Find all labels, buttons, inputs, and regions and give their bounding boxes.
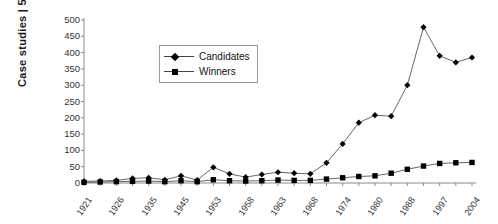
data-point-winners	[227, 178, 232, 183]
data-point-candidates	[420, 24, 426, 30]
data-point-winners	[453, 160, 458, 165]
legend-item-winners: Winners	[164, 64, 250, 79]
data-point-winners	[146, 178, 151, 183]
data-point-winners	[130, 179, 135, 184]
data-point-winners	[469, 160, 474, 165]
data-point-winners	[324, 176, 329, 181]
data-point-winners	[243, 178, 248, 183]
data-point-winners	[162, 179, 167, 184]
data-point-winners	[372, 173, 377, 178]
data-point-winners	[421, 163, 426, 168]
data-point-winners	[114, 179, 119, 184]
data-point-candidates	[291, 170, 297, 176]
data-point-winners	[437, 161, 442, 166]
data-point-winners	[97, 179, 102, 184]
data-point-winners	[388, 171, 393, 176]
data-point-candidates	[437, 53, 443, 59]
data-point-candidates	[453, 59, 459, 65]
data-point-winners	[81, 180, 86, 185]
data-point-winners	[275, 177, 280, 182]
plot-area	[0, 0, 498, 224]
data-point-candidates	[372, 112, 378, 118]
data-point-candidates	[226, 171, 232, 177]
data-point-winners	[308, 178, 313, 183]
data-point-winners	[211, 177, 216, 182]
data-point-winners	[194, 179, 199, 184]
data-point-winners	[178, 178, 183, 183]
winners-marker-icon	[164, 71, 194, 72]
data-point-winners	[405, 167, 410, 172]
legend-item-candidates: Candidates	[164, 49, 250, 64]
data-point-winners	[356, 174, 361, 179]
candidates-marker-icon	[164, 56, 194, 57]
data-point-candidates	[307, 171, 313, 177]
data-point-candidates	[259, 171, 265, 177]
chart-container: Case studies | 5 50045040035030025020015…	[0, 0, 498, 224]
data-point-candidates	[178, 173, 184, 179]
series-line-candidates	[84, 27, 472, 181]
data-point-winners	[259, 178, 264, 183]
data-point-winners	[291, 178, 296, 183]
legend-label-winners: Winners	[199, 66, 236, 77]
data-point-candidates	[388, 113, 394, 119]
data-point-winners	[340, 175, 345, 180]
data-point-candidates	[275, 169, 281, 175]
chart-legend: Candidates Winners	[159, 45, 258, 83]
legend-label-candidates: Candidates	[199, 51, 250, 62]
data-point-candidates	[404, 82, 410, 88]
data-point-candidates	[469, 54, 475, 60]
